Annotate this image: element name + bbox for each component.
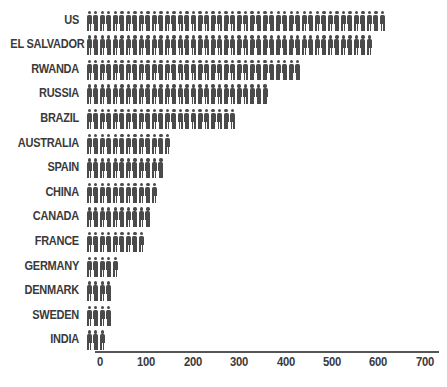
row-pictograms	[86, 181, 447, 203]
row-pictograms	[86, 328, 447, 350]
row-pictograms	[86, 9, 447, 31]
x-tick-label: 100	[136, 355, 156, 369]
chart-row: US	[0, 6, 447, 31]
chart-row: CANADA	[0, 203, 447, 228]
row-label: RUSSIA	[10, 87, 86, 100]
x-tick-label: 0	[97, 355, 104, 369]
person-icon	[112, 257, 119, 277]
pictogram-chart: USEL SALVADORRWANDARUSSIABRAZILAUSTRALIA…	[0, 0, 447, 387]
chart-row: FRANCE	[0, 227, 447, 252]
person-icon	[106, 306, 113, 326]
person-icon	[262, 84, 269, 104]
row-label: AUSTRALIA	[10, 137, 86, 150]
person-icon	[295, 60, 302, 80]
row-pictograms	[86, 58, 447, 80]
x-axis-tick-labels: 0100200300400500600700	[0, 355, 447, 377]
person-icon	[229, 109, 236, 129]
row-pictograms	[86, 156, 447, 178]
x-tick-label: 600	[368, 355, 388, 369]
chart-row: GERMANY	[0, 252, 447, 277]
person-icon	[164, 134, 171, 154]
row-pictograms	[86, 107, 447, 129]
row-pictograms	[86, 230, 447, 252]
chart-row: BRAZIL	[0, 104, 447, 129]
x-tick-label: 200	[183, 355, 203, 369]
chart-row: AUSTRALIA	[0, 129, 447, 154]
person-icon	[151, 183, 158, 203]
row-pictograms	[86, 33, 447, 55]
chart-row: RUSSIA	[0, 80, 447, 105]
x-tick-label: 400	[275, 355, 295, 369]
person-icon	[138, 232, 145, 252]
chart-row: CHINA	[0, 178, 447, 203]
chart-row: SWEDEN	[0, 301, 447, 326]
person-icon	[158, 158, 165, 178]
row-label: US	[10, 14, 86, 27]
chart-rows: USEL SALVADORRWANDARUSSIABRAZILAUSTRALIA…	[0, 6, 447, 350]
chart-row: RWANDA	[0, 55, 447, 80]
person-icon	[145, 207, 152, 227]
x-tick-label: 700	[415, 355, 435, 369]
x-tick-label: 500	[322, 355, 342, 369]
chart-row: EL SALVADOR	[0, 31, 447, 56]
row-label: BRAZIL	[10, 112, 86, 125]
chart-row: DENMARK	[0, 277, 447, 302]
row-label: DENMARK	[10, 284, 86, 297]
row-pictograms	[86, 82, 447, 104]
row-label: CHINA	[10, 186, 86, 199]
row-pictograms	[86, 205, 447, 227]
row-label: GERMANY	[10, 260, 86, 273]
row-pictograms	[86, 279, 447, 301]
chart-row: INDIA	[0, 326, 447, 351]
row-label: INDIA	[10, 333, 86, 346]
row-pictograms	[86, 132, 447, 154]
person-icon	[379, 11, 386, 31]
row-label: FRANCE	[10, 235, 86, 248]
x-axis-line	[95, 351, 439, 353]
row-pictograms	[86, 304, 447, 326]
row-label: RWANDA	[10, 63, 86, 76]
person-icon	[99, 330, 106, 350]
row-label: CANADA	[10, 210, 86, 223]
person-icon	[106, 281, 113, 301]
chart-row: SPAIN	[0, 154, 447, 179]
person-icon	[366, 35, 373, 55]
row-pictograms	[86, 255, 447, 277]
row-label: SWEDEN	[10, 309, 86, 322]
row-label: EL SALVADOR	[10, 38, 86, 51]
row-label: SPAIN	[10, 161, 86, 174]
x-tick-label: 300	[229, 355, 249, 369]
